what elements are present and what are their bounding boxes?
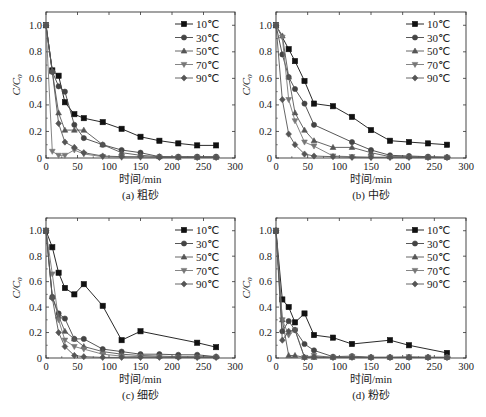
legend-marker-triangle-up [181, 254, 187, 259]
legend-label: 90℃ [196, 278, 219, 290]
y-tick-label: 0 [267, 353, 272, 364]
data-point-marker [286, 98, 292, 103]
chart-panel-c: 05010015020025030000.20.40.60.81.0C/C0时间… [10, 218, 243, 402]
y-tick-label: 0.6 [29, 276, 42, 287]
legend-label: 10℃ [196, 224, 219, 236]
series-diamond [43, 228, 219, 361]
x-tick-label: 100 [331, 161, 347, 172]
legend-label: 30℃ [427, 32, 450, 44]
y-tick-label: 0.8 [259, 46, 272, 57]
series-line [46, 25, 216, 145]
x-tick-label: 300 [227, 161, 243, 172]
data-point-marker [49, 149, 55, 154]
legend-marker-triangle-down [181, 62, 187, 67]
data-point-marker [302, 78, 307, 83]
series-line [46, 25, 216, 157]
y-tick-label: 0.6 [29, 73, 42, 84]
panel-caption: (c) 细砂 [122, 389, 159, 402]
legend-marker-triangle-down [412, 268, 418, 273]
series-line [276, 231, 447, 353]
legend-marker-square [181, 21, 186, 26]
x-tick-label: 250 [196, 161, 212, 172]
x-tick-label: 300 [458, 361, 474, 372]
y-tick-label: 1.0 [259, 225, 272, 236]
y-tick-label: 0.8 [29, 251, 42, 262]
x-tick-label: 300 [227, 361, 243, 372]
y-tick-label: 0.4 [259, 99, 273, 110]
x-tick-label: 150 [133, 161, 149, 172]
x-tick-label: 50 [302, 161, 313, 172]
legend-marker-triangle-up [412, 254, 418, 259]
legend-marker-diamond [412, 281, 418, 287]
x-axis-label: 时间/min [119, 173, 162, 185]
legend-marker-circle [412, 241, 417, 246]
legend-marker-triangle-down [181, 268, 187, 273]
chart-panel-d: 05010015020025030000.20.40.60.81.0C/C0时间… [240, 218, 474, 402]
legend: 10℃30℃50℃70℃90℃ [175, 224, 219, 290]
panel-caption: (b) 中砂 [352, 189, 390, 202]
legend-marker-square [412, 21, 417, 26]
series-triangle-up [43, 22, 219, 159]
x-tick-label: 150 [363, 161, 379, 172]
series-line [46, 25, 216, 157]
data-point-marker [72, 292, 77, 297]
series-line [276, 25, 447, 144]
series-square [273, 23, 449, 148]
legend: 10℃30℃50℃70℃90℃ [175, 18, 219, 84]
y-tick-label: 0.2 [259, 327, 272, 338]
legend-marker-triangle-up [181, 48, 187, 53]
series-circle [43, 23, 218, 160]
x-tick-label: 200 [395, 361, 411, 372]
legend-marker-triangle-up [412, 48, 418, 53]
legend-marker-circle [181, 241, 186, 246]
series-triangle-down [43, 23, 219, 160]
data-point-marker [56, 270, 61, 275]
series-line [276, 25, 447, 157]
data-point-marker [349, 144, 355, 149]
data-point-marker [311, 101, 316, 106]
legend-label: 10℃ [427, 18, 450, 30]
data-point-marker [56, 120, 62, 126]
data-point-marker [292, 86, 297, 91]
legend-label: 70℃ [196, 59, 219, 71]
data-point-marker [119, 126, 124, 131]
x-tick-label: 250 [196, 361, 212, 372]
data-point-marker [302, 341, 307, 346]
data-point-marker [176, 141, 181, 146]
legend-marker-diamond [181, 75, 187, 81]
y-tick-label: 1.0 [29, 225, 42, 236]
series-line [276, 25, 447, 157]
legend-label: 30℃ [196, 32, 219, 44]
series-line [46, 25, 216, 156]
y-tick-label: 1.0 [29, 20, 42, 31]
data-point-marker [62, 100, 67, 105]
data-point-marker [100, 303, 105, 308]
legend: 10℃30℃50℃70℃90℃ [406, 18, 450, 84]
y-tick-label: 0.6 [259, 73, 272, 84]
data-point-marker [195, 143, 200, 148]
x-tick-label: 100 [101, 161, 117, 172]
legend-marker-triangle-down [412, 62, 418, 67]
series-diamond [273, 22, 450, 160]
data-point-marker [406, 343, 411, 348]
x-tick-label: 50 [72, 361, 83, 372]
data-point-marker [81, 282, 86, 287]
series-line [276, 231, 447, 358]
data-point-marker [62, 139, 68, 145]
data-point-marker [292, 119, 298, 124]
x-tick-label: 200 [164, 361, 180, 372]
series-line [276, 25, 447, 157]
data-point-marker [195, 340, 200, 345]
y-tick-label: 0 [37, 153, 42, 164]
series-line [276, 231, 447, 358]
data-point-marker [292, 59, 297, 64]
data-point-marker [311, 144, 317, 149]
x-tick-label: 200 [395, 161, 411, 172]
legend-label: 50℃ [196, 251, 219, 263]
legend-label: 50℃ [196, 45, 219, 57]
x-tick-label: 0 [273, 361, 278, 372]
data-point-marker [444, 142, 449, 147]
series-line [276, 25, 447, 157]
panel-caption: (d) 粉砂 [352, 389, 390, 402]
y-tick-label: 0.8 [259, 251, 272, 262]
